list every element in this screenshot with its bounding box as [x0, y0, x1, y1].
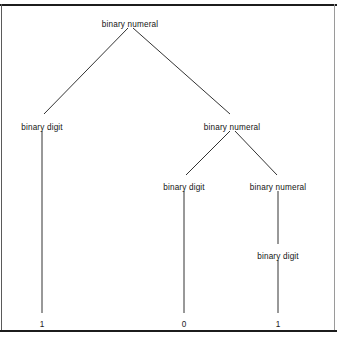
tree-edge-group [42, 28, 278, 313]
tree-node-n4: binary numeral [250, 183, 306, 193]
tree-node-n1: binary digit [21, 123, 63, 133]
tree-leaf-t2: 0 [182, 320, 187, 330]
tree-edge-n2-n4 [235, 131, 277, 175]
tree-edges-canvas [0, 0, 337, 343]
tree-node-n2: binary numeral [204, 123, 260, 133]
tree-leaf-t1: 1 [40, 320, 45, 330]
tree-node-n3: binary digit [163, 183, 205, 193]
tree-node-n0: binary numeral [102, 20, 158, 30]
tree-node-n5: binary digit [257, 252, 299, 262]
tree-edge-n0-n2 [133, 28, 230, 114]
parse-tree-figure: binary numeralbinary digitbinary numeral… [0, 0, 337, 343]
tree-edge-n2-n3 [186, 131, 230, 175]
tree-leaf-t3: 1 [276, 320, 281, 330]
tree-edge-n0-n1 [44, 28, 128, 114]
